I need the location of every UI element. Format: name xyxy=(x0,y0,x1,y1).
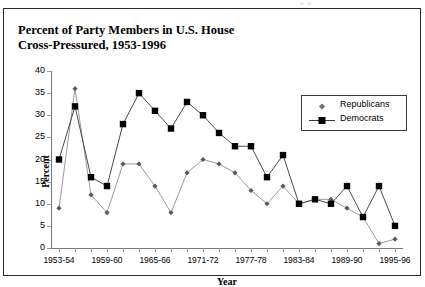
data-point xyxy=(104,183,110,189)
data-point xyxy=(136,90,142,96)
data-point xyxy=(152,108,158,114)
chart-legend: Republicans Democrats xyxy=(301,95,407,131)
data-point xyxy=(72,103,78,109)
x-axis-title: Year xyxy=(51,276,403,287)
y-tick-label: 5 xyxy=(17,220,45,230)
chart-title: Percent of Party Members in U.S. House C… xyxy=(18,23,348,53)
data-point xyxy=(200,112,206,118)
data-point xyxy=(392,237,397,242)
data-point xyxy=(216,161,221,166)
y-tick-label: 40 xyxy=(17,65,45,75)
y-axis-title: Percent xyxy=(40,155,51,188)
data-point xyxy=(344,183,350,189)
data-point xyxy=(168,210,173,215)
data-point xyxy=(280,152,286,158)
data-point xyxy=(360,214,366,220)
data-point xyxy=(264,174,270,180)
y-tick-label: 25 xyxy=(17,131,45,141)
data-point xyxy=(184,99,190,105)
data-point xyxy=(216,130,222,136)
data-point xyxy=(88,174,94,180)
data-point xyxy=(232,143,238,149)
x-tick-label: 1995-96 xyxy=(365,255,425,265)
chart-frame: Percent of Party Members in U.S. House C… xyxy=(3,8,421,276)
data-point xyxy=(376,183,382,189)
y-tick-label: 30 xyxy=(17,109,45,119)
legend-label-democrats: Democrats xyxy=(340,113,384,123)
data-point xyxy=(168,125,174,131)
data-point xyxy=(120,121,126,127)
data-point xyxy=(56,206,61,211)
legend-item-democrats: Democrats xyxy=(306,114,402,127)
chart-title-line-2: Cross-Pressured, 1953-1996 xyxy=(18,38,348,53)
chart-title-line-1: Percent of Party Members in U.S. House xyxy=(18,23,348,38)
legend-marker-diamond xyxy=(306,100,338,113)
data-point xyxy=(120,161,125,166)
data-point xyxy=(344,206,349,211)
data-point xyxy=(392,223,398,229)
legend-marker-square xyxy=(306,114,338,127)
data-point xyxy=(328,201,334,207)
y-tick-label: 10 xyxy=(17,198,45,208)
data-point xyxy=(376,241,381,246)
data-point xyxy=(248,143,254,149)
y-tick-label: 0 xyxy=(17,242,45,252)
data-point xyxy=(72,86,77,91)
y-tick-label: 35 xyxy=(17,87,45,97)
page-bleed-text: o o xyxy=(300,0,420,8)
data-point xyxy=(56,156,62,162)
legend-item-republicans: Republicans xyxy=(306,100,402,113)
data-point xyxy=(296,201,302,207)
legend-label-republicans: Republicans xyxy=(340,99,390,109)
data-point xyxy=(312,196,318,202)
